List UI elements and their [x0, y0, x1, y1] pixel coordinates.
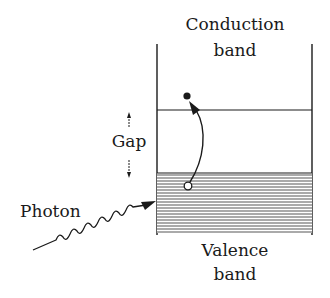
conduction-label-2: band — [214, 40, 257, 60]
band-diagram: Conduction band Valence band Gap Photon — [0, 0, 330, 298]
transition-arrow-icon — [189, 101, 203, 182]
gap-label: Gap — [112, 131, 147, 151]
electron-dot-icon — [183, 92, 190, 99]
hole-circle-icon — [184, 182, 192, 190]
gap-down-arrow-icon — [127, 160, 131, 178]
photon-label: Photon — [20, 201, 81, 221]
valence-label-2: band — [214, 264, 257, 284]
valence-label-1: Valence — [201, 240, 269, 260]
valence-band-fill — [157, 173, 312, 233]
gap-up-arrow-icon — [127, 112, 131, 128]
conduction-label-1: Conduction — [186, 14, 285, 34]
